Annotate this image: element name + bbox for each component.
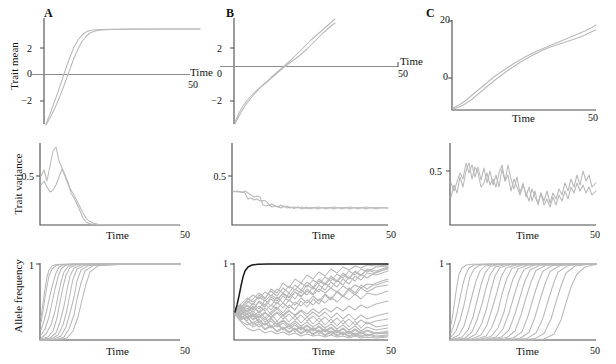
svg-c-trait-mean xyxy=(412,0,616,130)
svg-a-trait-variance xyxy=(0,135,206,245)
svg-c-allele-frequency xyxy=(412,255,616,364)
svg-b-allele-frequency xyxy=(206,255,412,364)
svg-a-allele-frequency xyxy=(0,255,206,364)
figure-panel-grid: A Trait mean 2 0 −2 Time 50 Trait varian… xyxy=(0,0,616,364)
svg-b-trait-mean xyxy=(206,0,412,130)
svg-a-trait-mean xyxy=(0,0,206,130)
svg-c-trait-variance xyxy=(412,135,616,245)
panel-column-c: C 20 0 Time 50 0.5 Time 50 xyxy=(412,0,616,364)
panel-column-a: A Trait mean 2 0 −2 Time 50 Trait varian… xyxy=(0,0,206,364)
svg-b-trait-variance xyxy=(206,135,412,245)
panel-column-b: B 2 0 −2 Time 50 0.5 Time 50 xyxy=(206,0,412,364)
